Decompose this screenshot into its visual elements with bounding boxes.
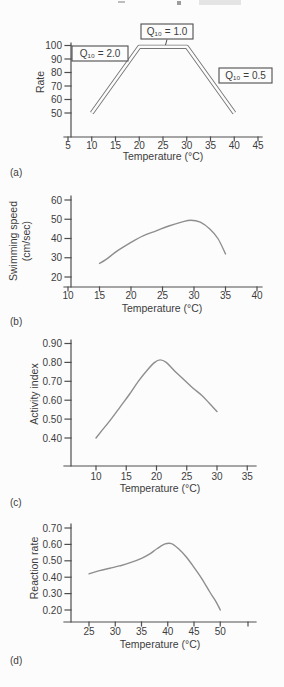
cropped-text-artifact (118, 1, 125, 3)
panel-a-x-tick-label: 5 (65, 140, 71, 151)
swimming-speed-curve (100, 220, 226, 263)
panel-b-x-tick-label: 30 (188, 290, 200, 301)
figure-canvas: 506070809010051015202530354045RateTemper… (0, 0, 284, 687)
panel-c-x-tick-label: 35 (242, 471, 254, 482)
panel-a-x-tick-label: 35 (205, 140, 217, 151)
panel-c-x-tick-label: 10 (90, 471, 102, 482)
panel-a-x-tick-label: 10 (86, 140, 98, 151)
panel-c-y-axis-title: Activity index (28, 363, 40, 425)
panel-c-x-axis-title: Temperature (°C) (120, 482, 201, 494)
panel-d-y-tick-label: 0.50 (43, 555, 63, 566)
panel-a-label: (a) (10, 167, 22, 178)
panel-c-y-tick-label: 0.80 (43, 357, 63, 368)
panel-b-y-tick-label: 40 (51, 233, 63, 244)
activity-index-curve (96, 360, 217, 438)
panel-d-y-axis-title: Reaction rate (28, 537, 40, 600)
panel-a-y-tick-label: 80 (51, 67, 63, 78)
panel-d-y-tick-label: 0.30 (43, 588, 63, 599)
cropped-text-artifact (199, 0, 241, 5)
panel-a-y-tick-label: 100 (45, 40, 62, 51)
panel-b-x-tick-label: 35 (220, 290, 232, 301)
panel-a-y-tick-label: 70 (51, 81, 63, 92)
panel-a-y-tick-label: 90 (51, 54, 63, 65)
panel-d-x-tick-label: 40 (162, 626, 174, 637)
panel-c-y-tick-label: 0.50 (43, 414, 63, 425)
cropped-text-artifact (177, 1, 181, 5)
panel-b-y-axis-title: (cm/sec) (20, 221, 32, 261)
panel-d-x-tick-label: 45 (188, 626, 200, 637)
annotation-label: Q₁₀ = 2.0 (80, 48, 121, 59)
panel-b-label: (b) (10, 316, 22, 327)
panel-c-y-tick-label: 0.70 (43, 376, 63, 387)
panel-c-x-tick-label: 25 (181, 471, 193, 482)
panel-d-x-tick-label: 30 (110, 626, 122, 637)
annotation-label: Q₁₀ = 1.0 (147, 26, 188, 37)
panel-b-x-tick-label: 40 (251, 290, 263, 301)
panel-b-x-tick-label: 25 (157, 290, 169, 301)
panel-d-label: (d) (10, 655, 22, 666)
panel-b-x-tick-label: 15 (94, 290, 106, 301)
panel-a-y-tick-label: 50 (51, 108, 63, 119)
panel-a-y-tick-label: 60 (51, 94, 63, 105)
panel-b-y-tick-label: 30 (51, 252, 63, 263)
panel-d-x-axis-title: Temperature (°C) (120, 638, 201, 650)
reaction-rate-curve (89, 543, 220, 610)
panel-d-x-tick-label: 25 (83, 626, 95, 637)
panel-b-y-tick-label: 20 (51, 272, 63, 283)
panel-d-y-tick-label: 0.40 (43, 572, 63, 583)
panel-d-y-tick-label: 0.20 (43, 605, 63, 616)
panel-c-x-tick-label: 15 (121, 471, 133, 482)
panel-a-x-axis-title: Temperature (°C) (123, 150, 204, 162)
panel-b-y-tick-label: 50 (51, 214, 63, 225)
panel-c-y-tick-label: 0.40 (43, 433, 63, 444)
annotation-pointer (166, 40, 168, 46)
panel-d-x-tick-label: 35 (136, 626, 148, 637)
annotation-label: Q₁₀ = 0.5 (225, 70, 266, 81)
panel-d-y-tick-label: 0.70 (43, 523, 63, 534)
panel-a-x-tick-label: 15 (110, 140, 122, 151)
panel-c-label: (c) (10, 497, 22, 508)
panel-b-x-tick-label: 20 (125, 290, 137, 301)
panel-a-y-axis-title: Rate (34, 71, 46, 93)
panel-c-x-tick-label: 20 (151, 471, 163, 482)
panel-b-x-tick-label: 10 (62, 290, 74, 301)
panel-d-y-tick-label: 0.60 (43, 539, 63, 550)
panel-b-y-tick-label: 60 (51, 195, 63, 206)
panel-d-x-tick-label: 50 (215, 626, 227, 637)
panel-c-y-tick-label: 0.60 (43, 395, 63, 406)
panel-c-x-tick-label: 30 (211, 471, 223, 482)
panel-a-x-tick-label: 45 (252, 140, 264, 151)
panel-b-x-axis-title: Temperature (°C) (122, 302, 203, 314)
panel-c-y-tick-label: 0.90 (43, 338, 63, 349)
q10-temperature-figure: 506070809010051015202530354045RateTemper… (0, 0, 284, 687)
panel-a-x-tick-label: 40 (229, 140, 241, 151)
panel-b-y-axis-title: Swimming speed (7, 201, 19, 281)
